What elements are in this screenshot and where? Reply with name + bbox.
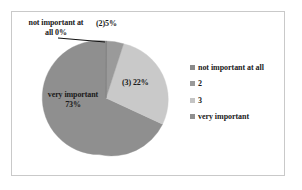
chart-frame: not important at all 0% (2)5% (3) 22% ve… xyxy=(11,11,285,176)
legend-label: 2 xyxy=(198,79,202,88)
legend-label: very important xyxy=(198,112,249,121)
leader-line-not-important xyxy=(58,38,105,42)
legend-label: 3 xyxy=(198,96,202,105)
legend-item-not-important-at-all[interactable]: not important at all xyxy=(190,59,286,76)
data-label-not-important-at-all: not important at all 0% xyxy=(24,18,88,37)
legend-swatch-icon xyxy=(190,114,195,119)
legend-label: not important at all xyxy=(198,63,264,72)
legend-swatch-icon xyxy=(190,98,195,103)
data-label-category-3: (3) 22% xyxy=(122,78,149,88)
legend-swatch-icon xyxy=(190,65,195,70)
data-label-category-2: (2)5% xyxy=(96,19,117,29)
legend-item-3[interactable]: 3 xyxy=(190,92,286,109)
legend-item-very-important[interactable]: very important xyxy=(190,109,286,126)
data-label-very-important: very important 73% xyxy=(44,90,102,109)
legend-item-2[interactable]: 2 xyxy=(190,76,286,93)
pie-chart-plot-area[interactable]: not important at all 0% (2)5% (3) 22% ve… xyxy=(12,12,286,177)
chart-legend: not important at all 2 3 very important xyxy=(190,59,286,125)
legend-swatch-icon xyxy=(190,81,195,86)
